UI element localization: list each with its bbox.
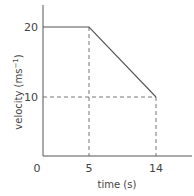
velocity-line — [43, 27, 156, 97]
y-axis-label: velocity (ms−1) — [12, 54, 24, 129]
x-tick-5: 5 — [86, 162, 93, 175]
x-tick-0: 0 — [34, 162, 41, 175]
y-tick-20: 20 — [24, 21, 38, 34]
x-tick-14: 14 — [149, 162, 163, 175]
y-tick-10: 10 — [24, 91, 38, 104]
x-axis-label: time (s) — [98, 179, 137, 190]
velocity-time-chart: 20 10 0 5 14 time (s) velocity (ms−1) — [0, 0, 194, 196]
